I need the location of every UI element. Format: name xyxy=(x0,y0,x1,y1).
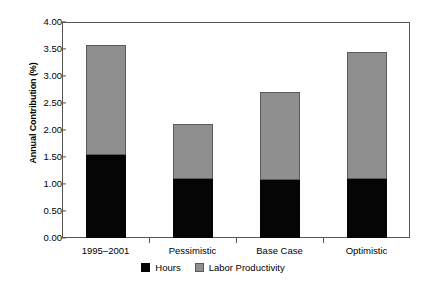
y-axis-tick-label: 1.50 xyxy=(6,152,62,162)
bar-segment-labor-productivity xyxy=(173,124,213,179)
legend-entry: Labor Productivity xyxy=(195,262,285,273)
x-axis-tick-label: Base Case xyxy=(256,245,302,256)
y-axis-tickmark xyxy=(62,183,66,184)
x-axis-tickmark xyxy=(236,238,237,243)
bar-segment-hours xyxy=(86,155,126,238)
bar-segment-labor-productivity xyxy=(86,45,126,156)
y-axis-tick-label: 1.00 xyxy=(6,179,62,189)
bar-group xyxy=(86,22,126,238)
y-axis-tick-label: 2.50 xyxy=(6,98,62,108)
bar-group xyxy=(173,22,213,238)
y-axis-tick-label: 4.00 xyxy=(6,17,62,27)
bar-segment-hours xyxy=(260,180,300,238)
legend-label: Labor Productivity xyxy=(209,262,285,273)
legend-swatch-icon xyxy=(141,263,150,272)
y-axis-tickmark xyxy=(62,129,66,130)
bar-chart: Annual Contribution (%) 0.000.501.001.50… xyxy=(0,0,426,292)
bar-segment-labor-productivity xyxy=(260,92,300,180)
bar-segment-hours xyxy=(347,179,387,238)
y-axis-tickmark xyxy=(62,102,66,103)
bars-layer xyxy=(62,22,410,238)
x-axis-tick-label: Pessimistic xyxy=(169,245,217,256)
y-axis-tickmark xyxy=(62,156,66,157)
y-axis-tick-group: 0.000.501.001.502.002.503.003.504.00 xyxy=(0,0,62,292)
y-axis-tick-label: 3.50 xyxy=(6,44,62,54)
bar-segment-hours xyxy=(173,179,213,238)
x-axis-tickmark xyxy=(149,238,150,243)
bar-group xyxy=(347,22,387,238)
y-axis-tickmark xyxy=(62,21,66,22)
legend-swatch-icon xyxy=(195,263,204,272)
legend-label: Hours xyxy=(155,262,180,273)
bar-group xyxy=(260,22,300,238)
y-axis-tick-label: 0.00 xyxy=(6,233,62,243)
bar-segment-labor-productivity xyxy=(347,52,387,179)
x-axis-tick-label: 1995–2001 xyxy=(82,245,130,256)
x-axis-tickmark xyxy=(323,238,324,243)
y-axis-tick-label: 2.00 xyxy=(6,125,62,135)
chart-legend: HoursLabor Productivity xyxy=(0,262,426,273)
legend-entry: Hours xyxy=(141,262,180,273)
y-axis-tickmark xyxy=(62,75,66,76)
y-axis-tickmark xyxy=(62,48,66,49)
x-axis-tick-label: Optimistic xyxy=(346,245,388,256)
y-axis-tickmark xyxy=(62,210,66,211)
y-axis-tickmark xyxy=(62,237,66,238)
y-axis-tick-label: 3.00 xyxy=(6,71,62,81)
y-axis-tick-label: 0.50 xyxy=(6,206,62,216)
